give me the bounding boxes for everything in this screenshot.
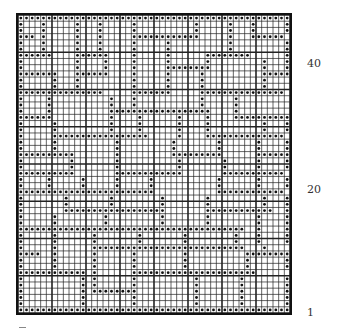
row-label-1: 1 (307, 306, 314, 319)
row-label-20: 20 (307, 183, 321, 196)
row-label-40: 40 (307, 57, 321, 70)
footnote-mark (19, 327, 26, 328)
dot-pattern-grid (18, 15, 290, 313)
chart-grid (16, 13, 292, 315)
